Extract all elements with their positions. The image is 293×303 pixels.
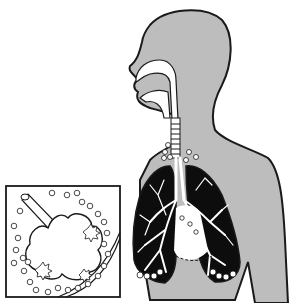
respiratory-diagram — [0, 0, 293, 303]
alveolus-inset — [6, 186, 120, 297]
trachea — [171, 118, 180, 158]
